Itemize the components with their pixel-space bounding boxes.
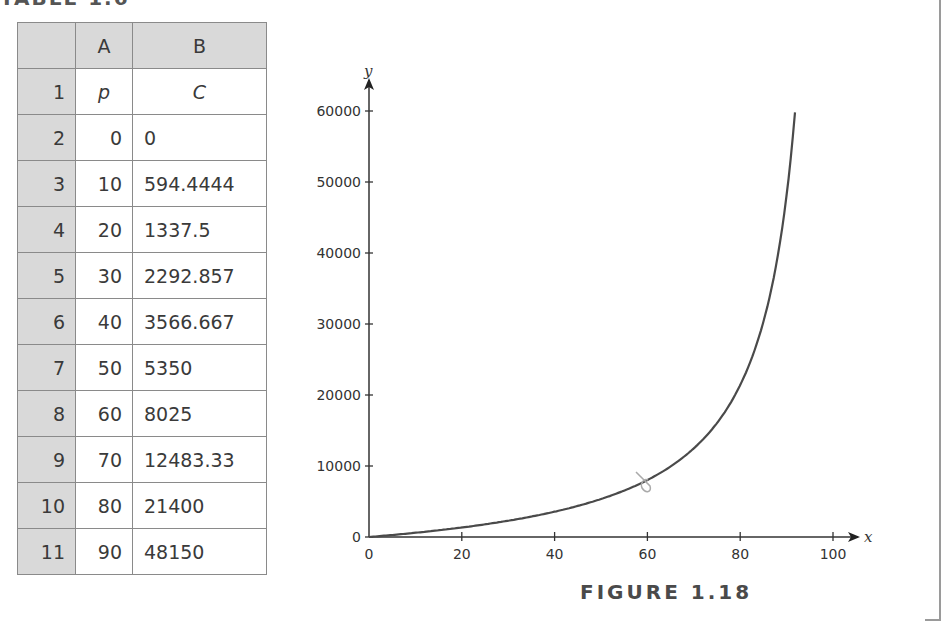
y-tick-label: 0	[352, 529, 361, 545]
line-chart: 0100002000030000400005000060000 02040608…	[0, 0, 943, 632]
figure-caption: FIGURE 1.18	[580, 580, 752, 604]
x-tick-label: 40	[546, 546, 564, 562]
y-tick-label: 60000	[316, 103, 361, 119]
x-axis-label: x	[864, 528, 873, 546]
y-tick-label: 30000	[316, 316, 361, 332]
y-tick-label: 20000	[316, 387, 361, 403]
x-tick-label: 80	[731, 546, 749, 562]
x-tick-label: 100	[820, 546, 847, 562]
x-tick-label: 20	[453, 546, 471, 562]
x-tick-label: 60	[638, 546, 656, 562]
page-edge-line	[939, 0, 941, 620]
y-ticks: 0100002000030000400005000060000	[316, 103, 373, 545]
y-tick-label: 10000	[316, 458, 361, 474]
page-edge-foot	[925, 619, 941, 621]
y-tick-label: 50000	[316, 174, 361, 190]
scribble-mark	[636, 472, 650, 492]
y-axis-label: y	[363, 62, 373, 80]
x-tick-label: 0	[365, 546, 374, 562]
y-tick-label: 40000	[316, 245, 361, 261]
data-curve	[369, 112, 795, 537]
